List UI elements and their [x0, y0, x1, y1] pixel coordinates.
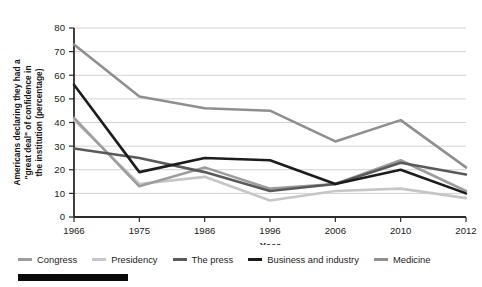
x-tick-label: 1966: [63, 225, 84, 236]
y-tick-label: 40: [54, 117, 65, 128]
y-axis-title-line: "great deal" of confidence in: [23, 65, 33, 179]
legend-swatch-icon: [18, 258, 32, 261]
confidence-in-institutions-chart: Americans declaring they had a"great dea…: [0, 0, 482, 287]
y-axis-title-line: the institution (percentage): [34, 68, 44, 176]
x-tick-label: 2006: [325, 225, 346, 236]
chart-plot-area: Americans declaring they had a"great dea…: [0, 0, 482, 245]
legend-label: Business and industry: [267, 254, 359, 265]
legend-swatch-icon: [248, 258, 262, 261]
series-line: [74, 45, 466, 168]
y-tick-label: 60: [54, 70, 65, 81]
legend-swatch-icon: [92, 258, 106, 261]
legend-item[interactable]: Congress: [18, 254, 77, 265]
x-axis-tick-labels: 1966197519861996200620102012: [63, 217, 476, 236]
y-tick-label: 30: [54, 141, 65, 152]
legend-item[interactable]: Presidency: [92, 254, 157, 265]
x-axis-title-label: Year: [260, 240, 281, 245]
line-chart-svg: Americans declaring they had a"great dea…: [0, 0, 482, 245]
y-axis-tick-labels: 01020304050607080: [54, 22, 74, 222]
y-tick-label: 50: [54, 93, 65, 104]
y-axis-title: Americans declaring they had a"great dea…: [12, 59, 44, 185]
legend-label: Presidency: [111, 254, 157, 265]
y-tick-label: 20: [54, 164, 65, 175]
y-tick-label: 10: [54, 188, 65, 199]
legend-swatch-icon: [374, 258, 388, 261]
legend-label: Congress: [37, 254, 77, 265]
legend-item[interactable]: Business and industry: [248, 254, 359, 265]
y-axis-title-line: Americans declaring they had a: [12, 59, 22, 185]
series-line: [74, 118, 466, 191]
chart-legend: CongressPresidencyThe pressBusiness and …: [0, 249, 482, 269]
legend-label: Medicine: [393, 254, 431, 265]
legend-item[interactable]: Medicine: [374, 254, 431, 265]
legend-label: The press: [192, 254, 234, 265]
x-axis-title: Year: [260, 240, 281, 245]
y-tick-label: 0: [60, 211, 65, 222]
legend-item[interactable]: The press: [173, 254, 234, 265]
x-tick-label: 1975: [129, 225, 150, 236]
legend-swatch-icon: [173, 258, 187, 261]
x-tick-label: 2010: [390, 225, 411, 236]
x-tick-label: 2012: [455, 225, 476, 236]
y-tick-label: 80: [54, 22, 65, 33]
x-tick-label: 1996: [259, 225, 280, 236]
footer-black-bar: [18, 274, 128, 281]
x-tick-label: 1986: [194, 225, 215, 236]
y-tick-label: 70: [54, 46, 65, 57]
